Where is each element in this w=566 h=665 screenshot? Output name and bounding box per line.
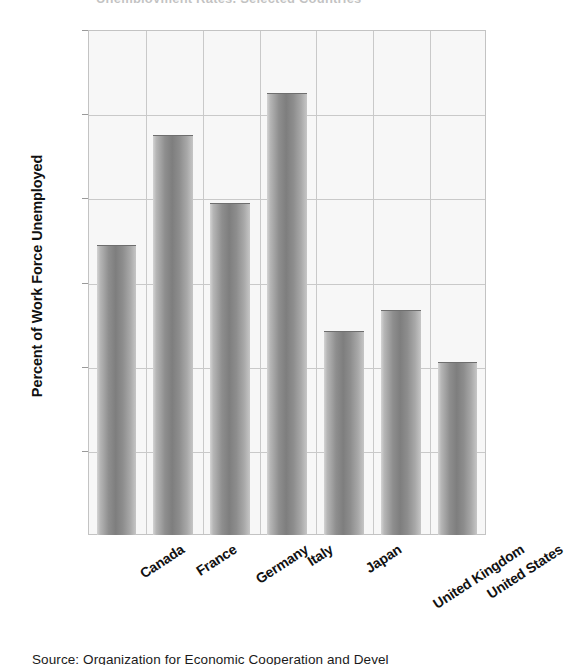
bar — [97, 245, 137, 535]
y-axis-title: Percent of Work Force Unemployed — [29, 146, 45, 406]
chart-title-cropped: Unemployment Rates, Selected Countries — [96, 0, 426, 3]
x-tick-label: Canada — [137, 541, 187, 581]
bar-series — [88, 30, 486, 535]
x-axis-ticks: CanadaFranceGermanyItalyJapanUnited King… — [0, 535, 500, 640]
bar — [267, 93, 307, 535]
bar — [210, 203, 250, 535]
y-tick-mark — [82, 367, 88, 368]
bar — [153, 135, 193, 535]
x-tick-label: France — [193, 541, 239, 579]
x-tick-label: Japan — [363, 541, 405, 576]
bar — [324, 331, 364, 535]
y-tick-mark — [82, 451, 88, 452]
y-tick-mark — [82, 198, 88, 199]
bar — [438, 362, 478, 535]
y-tick-mark — [82, 114, 88, 115]
y-tick-mark — [82, 283, 88, 284]
source-caption: Source: Organization for Economic Cooper… — [32, 652, 502, 665]
x-tick-label: Germany — [252, 541, 310, 587]
x-tick-label: Italy — [304, 541, 335, 569]
y-tick-mark — [82, 30, 88, 31]
bar — [381, 310, 421, 535]
